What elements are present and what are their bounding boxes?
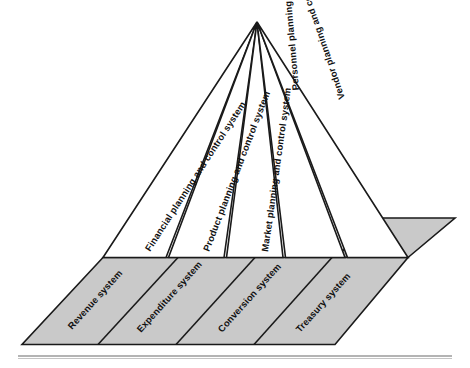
pyramid-diagram: Financial planning and control system Pr… — [0, 0, 470, 368]
diagram-canvas: Financial planning and control system Pr… — [0, 0, 470, 368]
